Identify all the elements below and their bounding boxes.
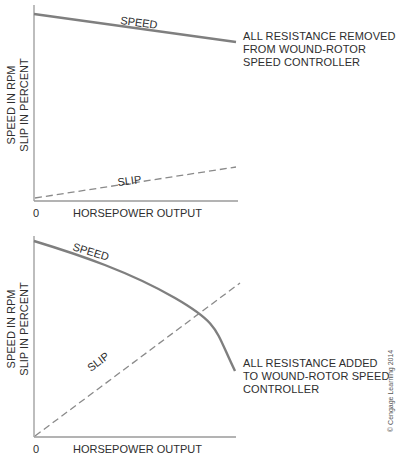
copyright-credit: © Cengage Learning 2014	[387, 350, 394, 432]
bottom-speed-curve	[34, 241, 235, 371]
top-speed-label: SPEED	[120, 14, 159, 31]
top-x-axis-label: HORSEPOWER OUTPUT	[73, 207, 202, 219]
bottom-ylabel-speed: SPEED IN RPM	[5, 290, 17, 369]
bottom-annotation-line-2: TO WOUND-ROTOR SPEED	[243, 370, 389, 383]
bottom-slip-curve	[35, 283, 240, 436]
top-slip-label: SLIP	[117, 173, 142, 188]
top-ylabel-speed: SPEED IN RPM	[5, 66, 17, 145]
top-annotation-line-3: SPEED CONTROLLER	[243, 56, 396, 69]
bottom-x-zero: 0	[33, 443, 39, 454]
top-annotation: ALL RESISTANCE REMOVED FROM WOUND-ROTOR …	[243, 30, 396, 69]
top-x-zero: 0	[33, 207, 39, 219]
bottom-chart: SPEED SLIP SPEED IN RPM SLIP IN PERCENT …	[5, 236, 240, 454]
bottom-x-axis-label: HORSEPOWER OUTPUT	[73, 443, 202, 454]
bottom-annotation-line-3: CONTROLLER	[243, 383, 389, 396]
top-ylabel-slip: SLIP IN PERCENT	[18, 58, 30, 152]
bottom-slip-label: SLIP	[85, 350, 111, 374]
top-chart: SPEED SLIP SPEED IN RPM SLIP IN PERCENT …	[5, 5, 238, 219]
bottom-annotation: ALL RESISTANCE ADDED TO WOUND-ROTOR SPEE…	[243, 357, 389, 396]
top-annotation-line-2: FROM WOUND-ROTOR	[243, 43, 396, 56]
bottom-ylabel-slip: SLIP IN PERCENT	[18, 282, 30, 376]
bottom-annotation-line-1: ALL RESISTANCE ADDED	[243, 357, 389, 370]
top-annotation-line-1: ALL RESISTANCE REMOVED	[243, 30, 396, 43]
